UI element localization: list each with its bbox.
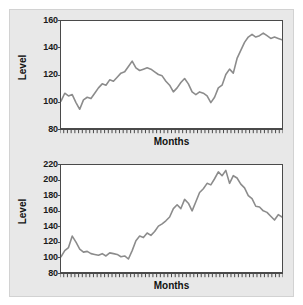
line-chart-top	[61, 21, 282, 128]
y-tick-label: 160	[12, 16, 58, 25]
line-chart-bottom	[61, 165, 282, 272]
chart-panel-top: Level 16014012010080 Months	[10, 10, 295, 154]
figure-card: Level 16014012010080 Months Level 220200…	[9, 9, 294, 297]
y-axis-ticks-bottom: 22020018016014012010080	[10, 164, 58, 273]
y-tick-label: 100	[12, 97, 58, 106]
x-axis-minor-ticks-top	[60, 129, 283, 135]
y-tick-label: 180	[12, 191, 58, 200]
y-tick-label: 200	[12, 175, 58, 184]
data-line	[61, 170, 282, 259]
y-tick-label: 160	[12, 206, 58, 215]
x-axis-label-bottom: Months	[60, 280, 283, 291]
y-tick-label: 140	[12, 43, 58, 52]
y-tick-label: 80	[12, 269, 58, 278]
y-axis-ticks-top: 16014012010080	[10, 20, 58, 129]
x-axis-label-top: Months	[60, 136, 283, 147]
y-tick-label: 80	[12, 125, 58, 134]
plot-area-top	[60, 20, 283, 129]
y-tick-label: 100	[12, 253, 58, 262]
y-tick-label: 120	[12, 237, 58, 246]
x-axis-minor-ticks-bottom	[60, 273, 283, 279]
data-line	[61, 33, 282, 109]
y-tick-label: 220	[12, 160, 58, 169]
y-tick-label: 140	[12, 222, 58, 231]
chart-panel-bottom: Level 22020018016014012010080 Months	[10, 154, 295, 298]
plot-area-bottom	[60, 164, 283, 273]
figure-root: Level 16014012010080 Months Level 220200…	[0, 0, 303, 305]
y-tick-label: 120	[12, 70, 58, 79]
